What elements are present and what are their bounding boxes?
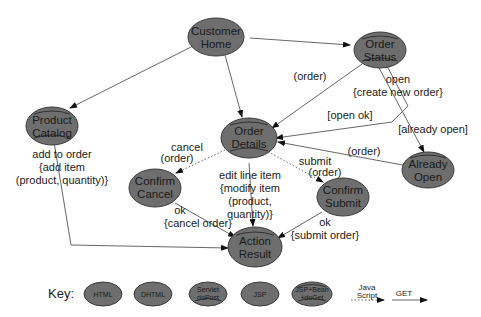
node-label: Order	[234, 125, 264, 137]
node-label: Product	[32, 114, 72, 126]
label-order: (order)	[293, 70, 326, 82]
legend-get: GET	[392, 289, 427, 300]
node-label: Order	[365, 38, 395, 50]
node-label: Confirm	[323, 184, 363, 196]
legend: Key: HTML DHTML Servlet doPost JSP JSP+B…	[48, 282, 427, 306]
legend-label: JSP	[254, 291, 267, 298]
label-add-to-order: add to order	[32, 148, 92, 160]
legend-label: JSP+Bean	[295, 286, 328, 293]
node-label: Open	[414, 171, 442, 183]
label-ok-submit: ok	[319, 216, 331, 228]
node-product-catalog: Product Catalog	[26, 107, 78, 145]
node-order-details: Order Details	[221, 118, 277, 158]
label-open-ok: [open ok]	[327, 109, 372, 121]
label-create-new-order: {create new order}	[353, 86, 443, 98]
node-label: Already	[409, 158, 448, 170]
legend-html: HTML	[84, 282, 122, 306]
edge-home-to-status	[250, 38, 350, 45]
label-cancel-order: (order)	[160, 152, 193, 164]
label-product: (product,	[228, 195, 271, 207]
edge-home-to-details	[225, 55, 242, 117]
legend-servlet-dopost: Servlet doPost	[189, 282, 227, 306]
label-edit-line-item: edit line item	[219, 169, 281, 181]
node-label: Catalog	[32, 127, 72, 139]
label-cancel-order-action: {cancel order}	[164, 217, 232, 229]
legend-jsp-bean-doget: JSP+Bean +doGet	[292, 282, 332, 306]
label-open: open	[386, 73, 410, 85]
label-product-quantity: (product, quantity)}	[16, 174, 109, 186]
legend-javascript: Java Script	[351, 283, 384, 300]
node-order-status: Order Status	[354, 32, 406, 68]
node-confirm-submit: Confirm Submit	[317, 178, 369, 216]
legend-label: Script	[357, 291, 378, 300]
legend-label: GET	[396, 289, 413, 298]
node-confirm-cancel: Confirm Cancel	[129, 169, 181, 207]
legend-label: Servlet	[197, 286, 219, 293]
legend-label: HTML	[93, 291, 112, 298]
legend-dhtml: DHTML	[134, 282, 172, 306]
node-label: Customer	[191, 25, 241, 37]
node-label: Confirm	[135, 175, 175, 187]
flow-diagram: (order) open {create new order} [open ok…	[0, 0, 481, 317]
node-already-open: Already Open	[402, 152, 454, 188]
node-label: Submit	[325, 197, 362, 209]
legend-label: doPost	[197, 294, 219, 301]
node-customer-home: Customer Home	[188, 18, 244, 56]
edge-already-to-details	[278, 142, 408, 166]
node-label: Details	[231, 138, 266, 150]
label-ok-cancel: ok	[174, 204, 186, 216]
legend-jsp: JSP	[241, 282, 279, 306]
edge-home-to-catalog	[70, 45, 195, 108]
legend-label: DHTML	[141, 291, 165, 298]
node-label: Cancel	[137, 188, 173, 200]
label-add-item: {add item	[39, 161, 85, 173]
node-label: Home	[201, 38, 232, 50]
node-label: Status	[364, 51, 397, 63]
label-order-2: (order)	[347, 145, 380, 157]
label-submit-order-action: {submit order}	[291, 229, 360, 241]
node-label: Result	[239, 248, 272, 260]
legend-title: Key:	[48, 286, 74, 301]
label-submit-order: (order)	[308, 166, 341, 178]
label-already-open: [already open]	[398, 123, 468, 135]
label-quantity: quantity)}	[227, 208, 273, 220]
node-action-result: Action Result	[228, 227, 282, 267]
label-modify-item: {modify item	[220, 182, 280, 194]
legend-label: +doGet	[300, 294, 323, 301]
node-label: Action	[239, 235, 271, 247]
